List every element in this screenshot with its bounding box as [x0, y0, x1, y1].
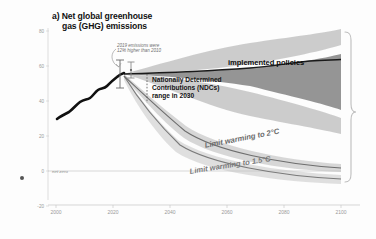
x-tick-label-2000: 2000: [41, 209, 71, 215]
x-tick-label-2100: 2100: [326, 209, 356, 215]
panel-title-line1: Net global greenhouse: [62, 11, 153, 21]
annotation-ndc-line2: Contributions (NDCs): [152, 84, 219, 91]
x-tick-marks: [56, 205, 341, 208]
annotation-ndc-range: Nationally Determined Contributions (NDC…: [152, 76, 222, 99]
x-tick-label-2060: 2060: [212, 209, 242, 215]
y-tick-label-0: 0: [28, 169, 44, 174]
net-zero-label: net zero: [52, 169, 68, 174]
x-tick-label-2080: 2080: [269, 209, 299, 215]
panel-title: a) Net global greenhouse gas (GHG) emiss…: [52, 11, 152, 32]
y-axis-label-bullet: [20, 176, 24, 180]
marker-2030-point: [130, 69, 132, 71]
annotation-ndc-line3: range in 2030: [152, 92, 194, 99]
annotation-2019-line2: 12% higher than 2010: [117, 48, 161, 53]
y-tick-label-60: 60: [28, 64, 44, 69]
annotation-ndc-line1: Nationally Determined: [152, 76, 222, 83]
panel-title-line2: gas (GHG) emissions: [62, 21, 152, 31]
historical-emissions-line: [57, 73, 124, 119]
y-tick-marks: [46, 31, 49, 206]
emissions-pathway-plot: [0, 0, 376, 239]
annotation-2019-line1: 2019 emissions were: [117, 43, 159, 48]
figure-panel-a: Gigatons of CO₂-equivalent emissions (Gt…: [0, 0, 376, 239]
x-tick-label-2020: 2020: [98, 209, 128, 215]
y-tick-label-20: 20: [28, 134, 44, 139]
y-tick-label-40: 40: [28, 99, 44, 104]
series-label-implemented-policies: implemented policies: [228, 58, 304, 67]
panel-letter: a): [52, 11, 59, 21]
y-tick-label-80: 80: [28, 29, 44, 34]
annotation-2019-emissions: 2019 emissions were 12% higher than 2010: [117, 43, 161, 54]
x-tick-label-2040: 2040: [155, 209, 185, 215]
y-tick-label-minus20: -20: [24, 204, 44, 209]
range-bracket: [345, 32, 356, 182]
